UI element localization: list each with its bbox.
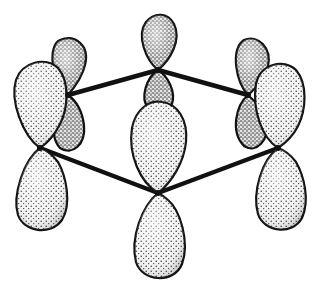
atom-c1 [155, 67, 161, 73]
atom-c4 [155, 190, 161, 196]
atom-c5 [37, 145, 43, 151]
orbital-c4-bottom [131, 102, 186, 278]
benzene-p-orbital-diagram [0, 0, 320, 298]
atom-c6 [65, 92, 71, 98]
orbital-c1-top [142, 15, 177, 113]
atom-c3 [275, 145, 281, 151]
atom-c2 [245, 92, 251, 98]
